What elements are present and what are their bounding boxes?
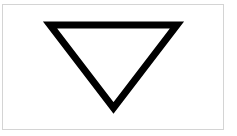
triangle-down-icon xyxy=(0,0,237,136)
inverted-triangle xyxy=(50,25,177,108)
